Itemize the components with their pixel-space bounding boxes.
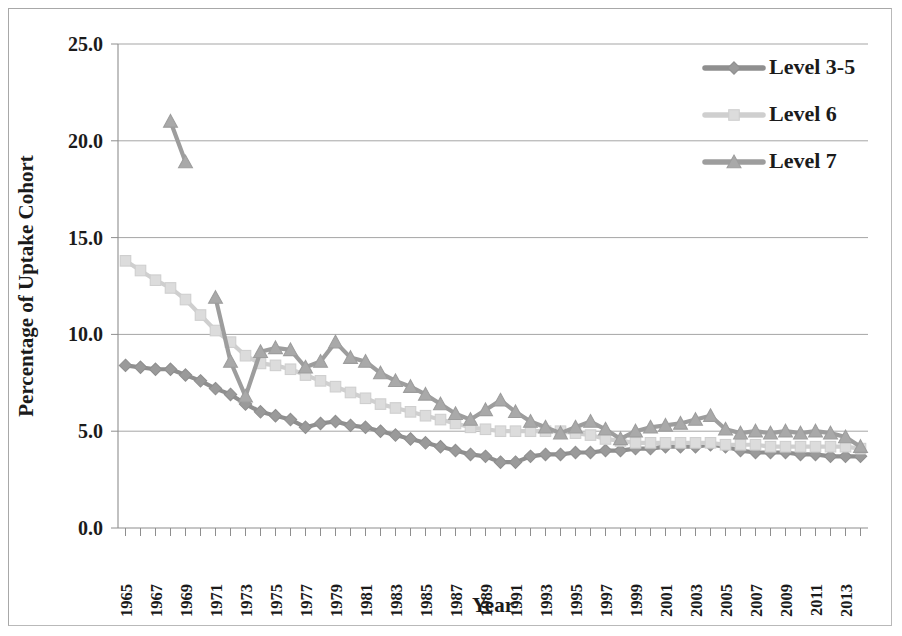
series-level-3-5 [119, 359, 866, 468]
data-point-marker [735, 439, 746, 450]
x-tick-label: 2001 [657, 584, 676, 617]
data-point-marker [329, 335, 343, 348]
x-tick-label: 1981 [357, 584, 376, 617]
data-point-marker [464, 448, 476, 460]
data-point-marker [765, 441, 776, 452]
data-point-marker [479, 450, 491, 462]
x-tick-label: 1973 [237, 584, 256, 617]
data-point-marker [390, 403, 401, 414]
data-point-marker [404, 433, 416, 445]
x-tick-label: 1971 [207, 584, 226, 617]
x-tick-label: 1983 [387, 584, 406, 617]
data-point-marker [584, 415, 598, 428]
data-point-marker [164, 363, 176, 375]
y-tick-marks-group [111, 44, 118, 528]
data-point-marker [434, 440, 446, 452]
x-tick-label: 1979 [327, 584, 346, 617]
data-point-marker [179, 369, 191, 381]
data-point-marker [825, 441, 836, 452]
data-point-marker [509, 456, 521, 468]
data-point-marker [729, 110, 740, 121]
y-tick-label: 20.0 [68, 130, 103, 152]
data-point-marker [690, 438, 701, 449]
y-tick-label: 25.0 [68, 33, 103, 55]
y-axis-title: Percentage of Uptake Cohort [14, 155, 38, 416]
data-point-marker [135, 265, 146, 276]
data-point-marker [569, 446, 581, 458]
data-point-marker [360, 393, 371, 404]
data-point-marker [720, 439, 731, 450]
data-point-marker [329, 415, 341, 427]
data-point-marker [810, 441, 821, 452]
x-tick-label: 2013 [837, 584, 856, 617]
data-point-marker [374, 425, 386, 437]
x-tick-label: 2011 [807, 584, 826, 616]
data-point-marker [405, 407, 416, 418]
line-chart: 0.05.010.015.020.025.0 19651967196919711… [0, 0, 902, 636]
x-tick-label: 1995 [567, 584, 586, 617]
data-point-marker [195, 310, 206, 321]
y-tick-label: 15.0 [68, 227, 103, 249]
data-point-marker [645, 438, 656, 449]
data-point-marker [510, 426, 521, 437]
series-level-6 [120, 256, 866, 454]
x-tick-label: 1975 [267, 584, 286, 617]
data-point-marker [539, 448, 551, 460]
data-point-marker [524, 450, 536, 462]
data-point-marker [270, 360, 281, 371]
x-axis-title: Year [472, 593, 514, 617]
data-point-marker [285, 364, 296, 375]
data-point-marker [345, 387, 356, 398]
y-tick-label: 0.0 [78, 517, 103, 539]
data-point-marker [164, 114, 178, 127]
data-point-marker [494, 456, 506, 468]
data-point-marker [728, 62, 740, 74]
data-point-marker [269, 410, 281, 422]
data-point-marker [660, 438, 671, 449]
data-point-marker [209, 291, 223, 304]
x-tick-label: 1999 [627, 584, 646, 617]
data-point-marker [420, 410, 431, 421]
data-point-marker [630, 438, 641, 449]
data-point-marker [480, 424, 491, 435]
data-point-marker [495, 426, 506, 437]
legend-label: Level 7 [769, 148, 837, 173]
data-point-marker [224, 355, 238, 368]
series-line [126, 261, 861, 449]
x-tick-label: 1985 [417, 584, 436, 617]
x-tick-label: 2009 [777, 584, 796, 617]
data-point-marker [449, 444, 461, 456]
data-point-marker [149, 363, 161, 375]
data-point-marker [120, 256, 131, 267]
data-point-marker [584, 446, 596, 458]
data-series-group [119, 114, 867, 468]
data-point-marker [239, 389, 253, 402]
data-point-marker [210, 325, 221, 336]
data-point-marker [795, 441, 806, 452]
data-point-marker [554, 448, 566, 460]
data-point-marker [599, 444, 611, 456]
x-tick-label: 1965 [117, 584, 136, 617]
data-point-marker [750, 439, 761, 450]
data-point-marker [134, 361, 146, 373]
y-tick-labels-group: 0.05.010.015.020.025.0 [68, 33, 103, 539]
chart-page: 0.05.010.015.020.025.0 19651967196919711… [0, 0, 902, 636]
data-point-marker [330, 381, 341, 392]
chart-legend: Level 3-5Level 6Level 7 [705, 54, 855, 173]
data-point-marker [119, 359, 131, 371]
x-tick-label: 2003 [687, 584, 706, 617]
x-tick-marks-group [126, 528, 861, 536]
data-point-marker [435, 414, 446, 425]
data-point-marker [240, 350, 251, 361]
data-point-marker [150, 275, 161, 286]
x-tick-label: 1967 [147, 584, 166, 617]
data-point-marker [780, 441, 791, 452]
x-tick-label: 2007 [747, 584, 766, 617]
data-point-marker [344, 419, 356, 431]
x-tick-label: 1969 [177, 584, 196, 617]
x-tick-label: 2005 [717, 584, 736, 617]
x-tick-label: 1977 [297, 584, 316, 617]
data-point-marker [705, 438, 716, 449]
data-point-marker [165, 283, 176, 294]
data-point-marker [314, 417, 326, 429]
